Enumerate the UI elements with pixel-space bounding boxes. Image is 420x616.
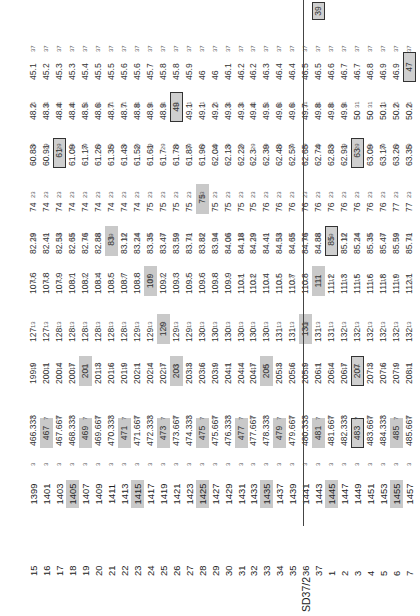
- divisor-label: 23: [247, 191, 260, 198]
- row-id: 1403: [53, 480, 66, 508]
- divisor-label: 13: [66, 321, 79, 328]
- row-id: 1421: [170, 480, 183, 508]
- divisor-label: 19: [196, 233, 209, 240]
- divisor-label: 7: [183, 417, 196, 420]
- divisor-label: 23: [377, 191, 390, 198]
- divisor-label: 3: [209, 463, 222, 466]
- divisor-label: 29: [299, 143, 312, 150]
- row-number: 20: [92, 566, 105, 576]
- divisor-label: 17: [118, 275, 131, 282]
- divisor-label: 17: [131, 275, 144, 282]
- divisor-label: 19: [273, 233, 286, 240]
- divisor-label: 29: [390, 143, 403, 150]
- divisor-label: 3: [196, 463, 209, 466]
- value-cell: 76: [338, 202, 351, 212]
- divisor-label: 13: [157, 321, 170, 328]
- divisor-label: 7: [377, 417, 390, 420]
- divisor-label: 23: [209, 191, 222, 198]
- divisor-label: 11: [312, 364, 325, 370]
- value-cell: 76: [312, 202, 325, 212]
- divisor-label: 29: [312, 143, 325, 150]
- row-id: 1441: [299, 480, 312, 508]
- value-cell: 132: [338, 328, 351, 342]
- row-number: 27: [183, 566, 196, 576]
- value-cell: 45.5: [92, 63, 105, 80]
- table-row: 25141934737202.71112913109.21783.4719752…: [157, 0, 170, 616]
- divisor-label: 23: [235, 191, 248, 198]
- divisor-label: 11: [364, 364, 377, 370]
- divisor-label: 13: [40, 321, 53, 328]
- table-row: 1714033467.6677200.41112813107.91782.531…: [53, 0, 66, 616]
- divisor-label: 17: [390, 275, 403, 282]
- divisor-label: 11: [377, 364, 390, 370]
- divisor-label: 11: [338, 364, 351, 370]
- divisor-label: 23: [79, 191, 92, 198]
- divisor-label: 31: [351, 101, 364, 108]
- table-row: 16140134677200.11112713107.81782.4119742…: [40, 0, 53, 616]
- value-cell: 45.3: [53, 63, 66, 80]
- divisor-label: 31: [170, 101, 183, 108]
- divisor-label: 31: [118, 101, 131, 108]
- divisor-label: 3: [92, 463, 105, 466]
- value-cell: 45.8: [157, 63, 170, 80]
- row-number: 36: [299, 566, 312, 576]
- divisor-label: 13: [312, 321, 325, 328]
- value-cell: 477: [235, 418, 248, 448]
- value-cell: 207: [351, 356, 364, 386]
- row-number: 6: [390, 571, 403, 576]
- divisor-label: 37: [118, 45, 131, 52]
- divisor-label: 7: [312, 417, 325, 420]
- value-cell: 130: [209, 328, 222, 342]
- divisor-label: 13: [364, 321, 377, 328]
- divisor-label: 17: [338, 275, 351, 282]
- divisor-label: 11: [260, 364, 273, 370]
- row-number: 32: [247, 566, 260, 576]
- divisor-label: 7: [53, 417, 66, 420]
- divisor-label: 11: [183, 364, 196, 370]
- divisor-label: 37: [40, 45, 53, 52]
- value-cell: 127: [40, 328, 53, 342]
- divisor-label: 7: [144, 417, 157, 420]
- divisor-label: 3: [364, 463, 377, 466]
- divisor-label: 13: [131, 321, 144, 328]
- divisor-label: 7: [325, 417, 338, 420]
- value-cell: 130: [196, 328, 209, 342]
- value-cell: 129: [183, 328, 196, 342]
- divisor-label: 37: [260, 45, 273, 52]
- row-id: 1447: [338, 480, 351, 508]
- divisor-label: 17: [364, 275, 377, 282]
- value-cell: 76: [286, 202, 299, 212]
- table-row: 34143734797205.31113113110.51784.5319762…: [273, 0, 286, 616]
- value-cell: 75: [209, 202, 222, 212]
- divisor-label: 23: [183, 191, 196, 198]
- row-number: 18: [66, 566, 79, 576]
- divisor-label: 11: [273, 364, 286, 370]
- value-cell: 129: [144, 328, 157, 342]
- table-row: 2014093469.6677201.31112813108.41782.881…: [92, 0, 105, 616]
- divisor-label: 11: [79, 364, 92, 370]
- divisor-label: 17: [66, 275, 79, 282]
- divisor-label: 31: [338, 101, 351, 108]
- value-cell: 46.7: [338, 63, 351, 80]
- value-cell: 85: [325, 226, 338, 256]
- divisor-label: 11: [131, 364, 144, 370]
- value-cell: 75: [144, 202, 157, 212]
- divisor-label: 7: [273, 417, 286, 420]
- divisor-label: 31: [286, 101, 299, 108]
- divisor-label: 29: [364, 143, 377, 150]
- divisor-label: 29: [66, 143, 79, 150]
- row-id: 1433: [247, 480, 260, 508]
- table-row: 37144334817206.111131131111784.881976236…: [312, 0, 325, 616]
- divisor-label: 3: [286, 463, 299, 466]
- divisor-label: 37: [66, 45, 79, 52]
- divisor-label: 31: [299, 101, 312, 108]
- table-row: 2614213473.66772031112913109.31783.59197…: [170, 0, 183, 616]
- row-id: 1409: [92, 480, 105, 508]
- divisor-label: 7: [351, 417, 364, 420]
- divisor-label: 37: [105, 45, 118, 52]
- divisor-label: 37: [390, 45, 403, 52]
- divisor-label: 17: [312, 275, 325, 282]
- table-row: 3214333477.6677204.71113013110.21784.291…: [247, 0, 260, 616]
- divisor-label: 37: [299, 45, 312, 52]
- divisor-label: 17: [351, 275, 364, 282]
